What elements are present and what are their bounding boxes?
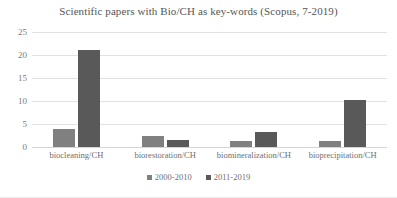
legend-swatch-icon bbox=[206, 175, 211, 180]
y-axis-tick-label: 25 bbox=[18, 27, 27, 37]
chart-title: Scientific papers with Bio/CH as key-wor… bbox=[0, 5, 397, 17]
chart-container: Scientific papers with Bio/CH as key-wor… bbox=[0, 0, 397, 198]
bar bbox=[319, 141, 341, 147]
legend-swatch-icon bbox=[147, 175, 152, 180]
x-axis-category-label: biomineralization/CH bbox=[210, 150, 299, 160]
bar-group bbox=[121, 32, 210, 147]
bar bbox=[53, 129, 75, 147]
legend-label: 2000-2010 bbox=[155, 172, 192, 182]
y-axis-tick-label: 5 bbox=[23, 119, 28, 129]
legend-item[interactable]: 2000-2010 bbox=[147, 172, 192, 182]
chart-legend: 2000-20102011-2019 bbox=[0, 172, 397, 182]
x-axis-category-labels: biocleaning/CHbiorestoration/CHbiominera… bbox=[32, 150, 387, 164]
y-axis-tick-label: 20 bbox=[18, 50, 27, 60]
bar bbox=[78, 50, 100, 147]
y-axis-tick-label: 0 bbox=[23, 142, 28, 152]
bar bbox=[167, 140, 189, 147]
x-axis-category-label: biocleaning/CH bbox=[32, 150, 121, 160]
bar bbox=[255, 132, 277, 147]
x-axis-category-label: bioprecipitation/CH bbox=[298, 150, 387, 160]
gridline bbox=[32, 147, 387, 148]
bar bbox=[230, 141, 252, 147]
bar bbox=[142, 136, 164, 148]
x-axis-category-label: biorestoration/CH bbox=[121, 150, 210, 160]
plot-area: 0510152025 bbox=[32, 32, 387, 147]
bar-group bbox=[210, 32, 299, 147]
y-axis-tick-label: 10 bbox=[18, 96, 27, 106]
bar-group bbox=[32, 32, 121, 147]
legend-item[interactable]: 2011-2019 bbox=[206, 172, 251, 182]
y-axis-tick-label: 15 bbox=[18, 73, 27, 83]
legend-label: 2011-2019 bbox=[214, 172, 251, 182]
bar bbox=[344, 100, 366, 147]
bar-group bbox=[298, 32, 387, 147]
